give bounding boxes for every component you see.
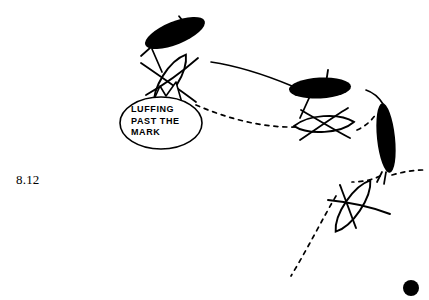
rigging-upper-black <box>141 48 162 72</box>
figure-number: 8.12 <box>16 172 40 188</box>
boat-white-lower <box>329 176 377 237</box>
sailing-diagram-artwork <box>0 0 429 300</box>
racing-mark-buoy <box>403 280 419 296</box>
boat-black-middle <box>288 76 351 100</box>
speech-bubble <box>120 82 202 149</box>
track-windward-boat <box>211 62 292 86</box>
figure-canvas: LUFFING PAST THE MARK 8.12 <box>0 0 429 300</box>
boat-black-right <box>373 102 398 173</box>
